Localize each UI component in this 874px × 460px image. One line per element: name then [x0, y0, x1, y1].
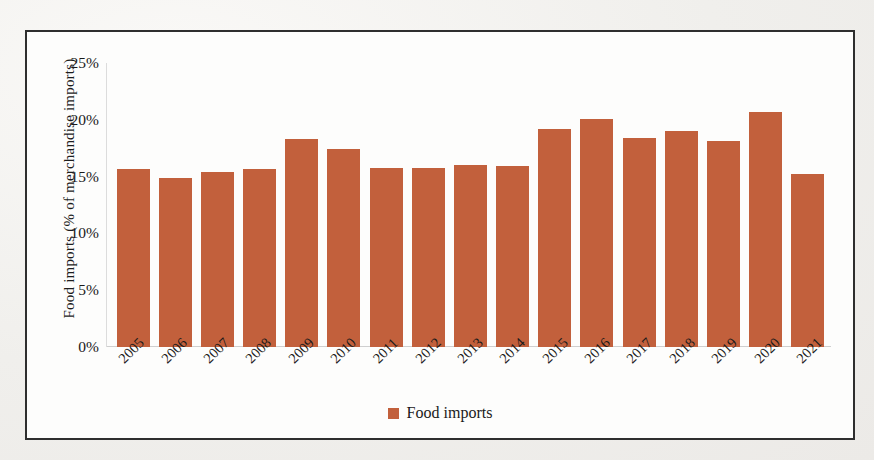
- bar[interactable]: [412, 168, 445, 347]
- legend-label: Food imports: [407, 404, 493, 422]
- x-tick-slot: 2008: [238, 349, 280, 409]
- bar[interactable]: [117, 169, 150, 347]
- bar-group: [112, 63, 829, 347]
- bar-slot: [154, 63, 196, 347]
- x-tick-slot: 2016: [577, 349, 619, 409]
- x-tick-slot: 2005: [111, 349, 153, 409]
- x-tick-slot: 2020: [746, 349, 788, 409]
- x-tick-slot: 2011: [365, 349, 407, 409]
- bar[interactable]: [496, 166, 529, 347]
- x-tick-slot: 2018: [662, 349, 704, 409]
- y-axis-tick-labels: 25%20%15%10%5%0%: [37, 32, 99, 438]
- bar-slot: [576, 63, 618, 347]
- bar[interactable]: [580, 119, 613, 347]
- x-axis-tick-labels: 2005200620072008200920102011201220132014…: [111, 349, 831, 409]
- bar-slot: [239, 63, 281, 347]
- bar[interactable]: [327, 149, 360, 347]
- bar-slot: [702, 63, 744, 347]
- bar-slot: [281, 63, 323, 347]
- bar[interactable]: [791, 174, 824, 347]
- bar[interactable]: [243, 169, 276, 347]
- bar-slot: [618, 63, 660, 347]
- bar-slot: [449, 63, 491, 347]
- x-tick-slot: 2021: [789, 349, 831, 409]
- y-axis-tick-label: 25%: [71, 54, 99, 72]
- x-tick-slot: 2014: [492, 349, 534, 409]
- x-tick-slot: 2009: [280, 349, 322, 409]
- x-tick-slot: 2013: [450, 349, 492, 409]
- bar[interactable]: [454, 165, 487, 347]
- bar-slot: [323, 63, 365, 347]
- x-tick-slot: 2019: [704, 349, 746, 409]
- y-axis-tick-label: 5%: [78, 281, 99, 299]
- bar-slot: [196, 63, 238, 347]
- figure-frame: Food imports (% of merchandise imports) …: [25, 30, 855, 440]
- x-tick-slot: 2015: [535, 349, 577, 409]
- bar[interactable]: [201, 172, 234, 347]
- y-axis-tick-label: 15%: [71, 168, 99, 186]
- bar-slot: [745, 63, 787, 347]
- bar[interactable]: [623, 138, 656, 347]
- bar-slot: [660, 63, 702, 347]
- x-tick-slot: 2006: [153, 349, 195, 409]
- bar[interactable]: [285, 139, 318, 347]
- bar[interactable]: [749, 112, 782, 347]
- bar-slot: [534, 63, 576, 347]
- x-tick-slot: 2010: [323, 349, 365, 409]
- y-axis-tick-label: 10%: [71, 224, 99, 242]
- bar[interactable]: [370, 168, 403, 347]
- bar-chart: Food imports (% of merchandise imports) …: [27, 32, 853, 438]
- y-axis-tick-label: 0%: [78, 338, 99, 356]
- bar-slot: [492, 63, 534, 347]
- bar-slot: [407, 63, 449, 347]
- x-tick-slot: 2012: [408, 349, 450, 409]
- bar[interactable]: [159, 178, 192, 347]
- plot-area: [106, 63, 831, 347]
- x-tick-slot: 2007: [196, 349, 238, 409]
- bar[interactable]: [538, 129, 571, 347]
- x-tick-slot: 2017: [619, 349, 661, 409]
- bar-slot: [365, 63, 407, 347]
- bar-slot: [787, 63, 829, 347]
- bar-slot: [112, 63, 154, 347]
- legend-square-marker-icon: [388, 408, 399, 419]
- chart-legend: Food imports: [27, 404, 853, 422]
- bar[interactable]: [665, 131, 698, 347]
- bar[interactable]: [707, 141, 740, 347]
- y-axis-tick-label: 20%: [71, 111, 99, 129]
